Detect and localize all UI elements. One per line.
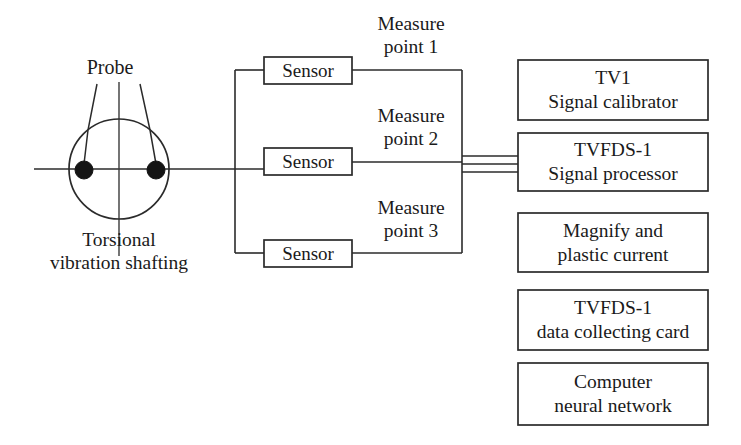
measure-point-label-1: Measure point 1 xyxy=(358,12,464,59)
unit-box-2 xyxy=(518,133,708,191)
probe-label: Probe xyxy=(55,56,165,79)
measure-point-label-3: Measure point 3 xyxy=(358,196,464,243)
unit-box-4 xyxy=(518,290,708,350)
sensor-label-3: Sensor xyxy=(264,240,352,267)
probe-dot-left xyxy=(75,161,93,179)
sensor-label-1: Sensor xyxy=(264,57,352,84)
probe-leader-line-left xyxy=(84,84,97,164)
shaft-caption-line1: Torsional xyxy=(19,228,219,251)
measure-point-3-line2: point 3 xyxy=(358,219,464,242)
measure-point-2-line1: Measure xyxy=(358,104,464,127)
probe-dot-right xyxy=(147,161,165,179)
unit-box-1 xyxy=(518,60,708,120)
unit-box-5 xyxy=(518,363,708,425)
torsional-vibration-block-diagram: Probe Torsional vibration shafting Senso… xyxy=(0,0,741,445)
measure-point-1-line2: point 1 xyxy=(358,35,464,58)
measure-point-label-2: Measure point 2 xyxy=(358,104,464,151)
sensor-label-2: Sensor xyxy=(264,148,352,175)
shaft-caption-line2: vibration shafting xyxy=(19,251,219,274)
measure-point-3-line1: Measure xyxy=(358,196,464,219)
measure-point-2-line2: point 2 xyxy=(358,127,464,150)
unit-box-3 xyxy=(518,213,708,272)
measure-point-1-line1: Measure xyxy=(358,12,464,35)
shaft-caption: Torsional vibration shafting xyxy=(19,228,219,275)
